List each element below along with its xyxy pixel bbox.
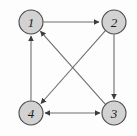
edge-2-to-4 [41, 31, 105, 104]
node-3[interactable]: 3 [102, 101, 126, 125]
graph-canvas: 1 2 3 4 [0, 0, 137, 136]
directed-graph-figure: 1 2 3 4 [0, 0, 137, 136]
node-4-label: 4 [28, 106, 35, 121]
node-2-label: 2 [111, 15, 118, 30]
node-2[interactable]: 2 [102, 10, 126, 34]
node-1-label: 1 [28, 15, 35, 30]
node-1[interactable]: 1 [19, 10, 43, 34]
edges-layer [31, 22, 114, 113]
node-4[interactable]: 4 [19, 101, 43, 125]
node-3-label: 3 [110, 106, 118, 121]
